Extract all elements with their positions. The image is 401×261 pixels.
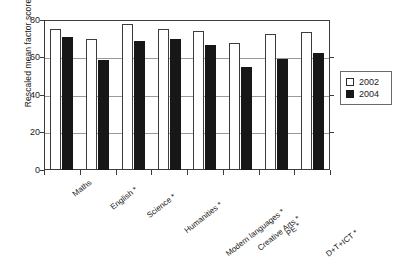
y-tick-right-60: [330, 57, 334, 58]
x-tick: [80, 170, 81, 175]
x-axis-label-maths: Maths: [71, 178, 94, 199]
bar-group: [294, 20, 330, 170]
bar-2002: [122, 24, 133, 170]
bar-2002: [50, 29, 61, 170]
bar-chart-figure: Rescaled mean factor score 80 60 40 20 0…: [0, 0, 401, 261]
legend-label-2002: 2002: [359, 78, 379, 87]
bar-2004: [134, 41, 145, 170]
bar-2004: [170, 39, 181, 170]
x-tick: [187, 170, 188, 175]
bar-2004: [241, 67, 252, 170]
bar-2002: [193, 31, 204, 170]
y-tick-label-20: 20: [0, 128, 40, 137]
x-tick: [330, 170, 331, 175]
chart-legend: 2002 2004: [340, 71, 392, 105]
bar-2004: [313, 53, 324, 170]
x-axis-label-english: English *: [109, 185, 139, 212]
bar-group: [187, 20, 223, 170]
bar-group: [80, 20, 116, 170]
bar-2002: [301, 32, 312, 170]
bar-2004: [98, 60, 109, 170]
y-tick-label-40: 40: [0, 91, 40, 100]
legend-item-2004: 2004: [346, 88, 387, 100]
bar-2002: [86, 39, 97, 170]
bar-group: [116, 20, 152, 170]
x-axis-label-d-t-ict: D+T+ICT *: [324, 228, 360, 259]
bar-group: [44, 20, 80, 170]
y-tick-right-20: [330, 132, 334, 133]
x-tick: [223, 170, 224, 175]
bar-group: [223, 20, 259, 170]
bar-2004: [62, 37, 73, 170]
bar-2002: [158, 29, 169, 170]
legend-item-2002: 2002: [346, 76, 387, 88]
bar-2004: [277, 59, 288, 170]
y-tick-label-0: 0: [0, 166, 40, 175]
bar-group: [259, 20, 295, 170]
bars-layer: [44, 20, 330, 170]
x-tick: [116, 170, 117, 175]
legend-swatch-filled-square-icon: [346, 90, 354, 98]
y-tick-label-80: 80: [0, 16, 40, 25]
x-tick: [44, 170, 45, 175]
x-tick: [151, 170, 152, 175]
legend-label-2004: 2004: [359, 90, 379, 99]
x-axis-label-science: Science *: [145, 192, 177, 220]
y-tick-right-40: [330, 95, 334, 96]
legend-swatch-hollow-square-icon: [346, 78, 354, 86]
bar-2004: [205, 45, 216, 170]
bar-group: [151, 20, 187, 170]
y-tick-label-60: 60: [0, 53, 40, 62]
bar-2002: [229, 43, 240, 171]
x-axis-label-humanities: Humanities *: [183, 200, 224, 235]
x-tick: [259, 170, 260, 175]
bar-2002: [265, 34, 276, 170]
x-tick: [294, 170, 295, 175]
